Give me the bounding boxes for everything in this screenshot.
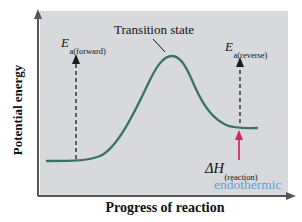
endothermic-label: endothermic xyxy=(214,178,281,192)
ea-forward-symbol: E xyxy=(61,35,69,50)
delta-h-symbol: ΔH xyxy=(205,160,224,176)
ea-forward-subscript: a(forward) xyxy=(69,46,105,56)
x-axis-arrowhead-icon xyxy=(286,192,296,200)
transition-state-label: Transition state xyxy=(114,23,194,36)
ea-reverse-subscript: a(reverse) xyxy=(233,50,267,60)
ea-forward-label: Ea(forward) xyxy=(61,36,105,52)
potential-energy-diagram: Transition state Ea(forward) Ea(reverse)… xyxy=(0,0,302,222)
ea-reverse-symbol: E xyxy=(225,39,233,54)
ea-reverse-label: Ea(reverse) xyxy=(225,40,267,56)
delta-h-label: ΔH(reaction) xyxy=(205,161,257,178)
x-axis-title: Progress of reaction xyxy=(40,201,290,215)
y-axis-title: Potential energy xyxy=(11,65,24,156)
